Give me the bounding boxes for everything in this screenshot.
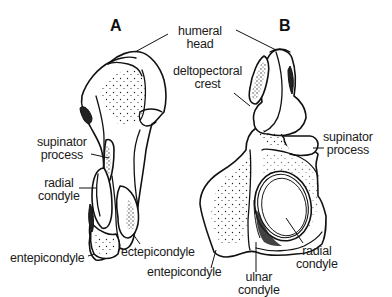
label-supinator-process-a: supinator process bbox=[37, 136, 87, 162]
leader-deltopectoral-crest bbox=[234, 93, 250, 106]
label-entepicondyle-b: entepicondyle bbox=[147, 266, 222, 279]
label-radial-condyle-b: radial condyle bbox=[296, 245, 338, 271]
label-deltopectoral-crest: deltopectoral crest bbox=[173, 65, 242, 91]
label-supinator-process-b: supinator process bbox=[323, 131, 373, 157]
label-ulnar-condyle-b: ulnar condyle bbox=[238, 271, 280, 297]
label-entepicondyle-a: entepicondyle bbox=[10, 252, 85, 265]
label-ectepicondyle-a: ectepicondyle bbox=[121, 246, 195, 259]
panel-label-b: B bbox=[279, 17, 291, 35]
leader-humeral-head-b bbox=[236, 30, 276, 50]
label-radial-condyle-a: radial condyle bbox=[38, 177, 80, 203]
humerus-diagram: A B humeral head deltopectoral crest sup… bbox=[0, 0, 392, 297]
label-humeral-head: humeral head bbox=[178, 25, 222, 51]
humerus-a bbox=[80, 52, 166, 261]
leader-humeral-head-a bbox=[135, 34, 168, 52]
panel-label-a: A bbox=[110, 17, 122, 35]
